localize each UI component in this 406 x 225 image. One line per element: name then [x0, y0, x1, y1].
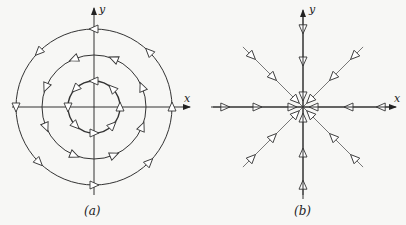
- panel-a-y-label: y: [99, 3, 105, 16]
- panel-a-x-label: x: [184, 92, 190, 105]
- panel-b-diagram: [211, 10, 396, 199]
- diagram-canvas: [0, 0, 406, 225]
- panel-a-caption: (a): [84, 204, 101, 218]
- panel-b-x-label: x: [394, 92, 400, 105]
- panel-b-caption: (b): [294, 204, 311, 218]
- panel-a-diagram: [12, 8, 190, 195]
- panel-b-y-label: y: [309, 3, 315, 16]
